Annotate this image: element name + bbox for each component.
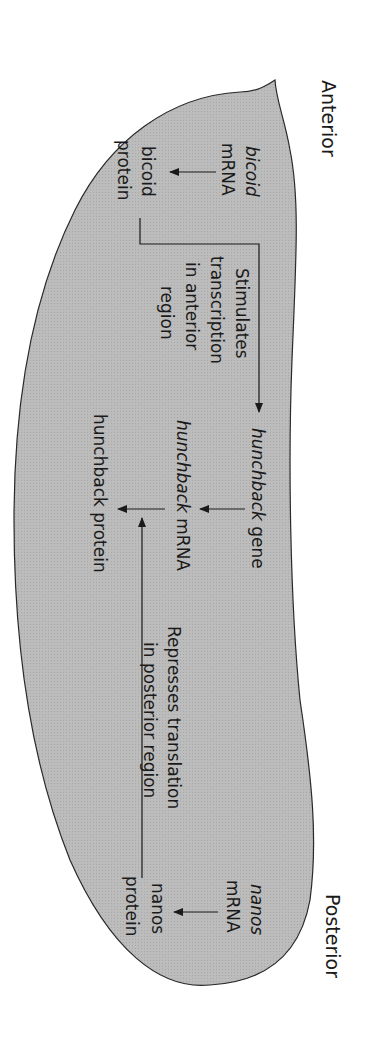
bicoid-mrna-label-2: mRNA [218, 143, 238, 196]
bicoid-protein-label-1: bicoid [138, 146, 158, 197]
stimulates-label-2: transcription [207, 256, 227, 364]
anterior-label: Anterior [318, 80, 340, 157]
embryo-diagram: Anterior Posterior bicoid mRNA bicoid pr… [0, 0, 365, 1048]
nanos-mrna-label-2: mRNA [223, 880, 243, 933]
bicoid-protein-label-2: protein [114, 140, 134, 200]
stimulates-label-1: Stimulates [232, 268, 252, 359]
nanos-protein-label-2: protein [122, 876, 142, 936]
represses-label-1: Represses translation [164, 626, 184, 809]
stimulates-label-4: region [157, 286, 177, 340]
hunchback-protein-label: hunchback protein [90, 414, 110, 573]
nanos-protein-label-1: nanos [148, 883, 168, 934]
posterior-label: Posterior [322, 894, 344, 978]
stimulates-label-3: in anterior [182, 262, 202, 350]
hunchback-mrna-label: hunchback mRNA [173, 420, 193, 571]
bicoid-mrna-label-1: bicoid [242, 146, 262, 197]
represses-label-2: in posterior region [140, 642, 160, 798]
hunchback-gene-label: hunchback gene [248, 428, 268, 569]
nanos-mrna-label-1: nanos [247, 884, 267, 935]
